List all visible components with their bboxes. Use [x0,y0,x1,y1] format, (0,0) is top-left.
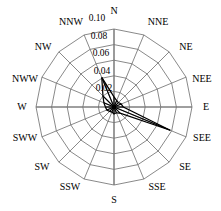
grid-spoke [114,52,169,107]
direction-label-see: SEE [193,133,211,143]
grid-spoke [114,107,169,162]
direction-label-s: S [111,195,117,205]
direction-label-nee: NEE [192,74,211,84]
radial-tick-label-0-10: 0.10 [89,14,106,24]
direction-label-ssw: SSW [60,182,81,192]
direction-label-w: W [17,102,26,112]
direction-label-sse: SSE [148,182,165,192]
radial-tick-label-0-02: 0.02 [96,84,113,94]
direction-label-sww: SWW [13,133,37,143]
grid-spoke [59,107,114,162]
direction-label-sw: SW [35,162,50,172]
radial-tick-label-0-06: 0.06 [93,49,110,59]
direction-label-nww: NWW [12,74,38,84]
radial-tick-label-0-08: 0.08 [91,32,108,42]
direction-label-nw: NW [35,42,52,52]
direction-label-n: N [110,6,117,16]
wind-rose-chart: NNNENENEEESEESESSESSSWSWSWWWNWWNWNNW 0.1… [0,0,221,211]
polar-plot-canvas [0,0,221,211]
direction-label-e: E [203,102,209,112]
direction-label-ne: NE [179,42,192,52]
direction-label-nnw: NNW [59,17,83,27]
direction-label-se: SE [179,162,191,172]
radial-tick-label-0-04: 0.04 [94,67,111,77]
direction-label-nne: NNE [148,17,169,27]
